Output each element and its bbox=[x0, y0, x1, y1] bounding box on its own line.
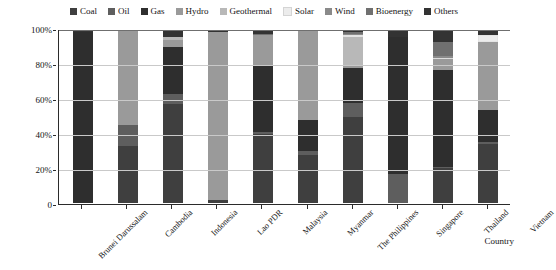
bar-segment-hydro bbox=[208, 32, 228, 200]
y-tick-mark-60 bbox=[53, 100, 56, 101]
legend-item-others[interactable]: Others bbox=[424, 6, 458, 16]
bar-segment-gas bbox=[388, 37, 408, 174]
legend-label: Geothermal bbox=[230, 6, 272, 16]
bar-segment-gas bbox=[343, 68, 363, 103]
bar-segment-oil bbox=[388, 174, 408, 203]
bar-segment-gas bbox=[433, 70, 453, 167]
bar-segment-hydro bbox=[253, 35, 273, 66]
bar-segment-hydro bbox=[163, 40, 183, 47]
stacked-bar[interactable] bbox=[433, 30, 453, 203]
y-tick-label-40: 40% bbox=[6, 131, 52, 140]
bar-segment-others bbox=[163, 30, 183, 37]
legend-label: Others bbox=[434, 6, 458, 16]
bar-segment-coal bbox=[343, 117, 363, 204]
bar-segment-coal bbox=[298, 155, 318, 203]
legend-item-gas[interactable]: Gas bbox=[141, 6, 165, 16]
gridline-20 bbox=[59, 170, 510, 171]
y-tick-mark-0 bbox=[53, 205, 56, 206]
y-axis-tick-labels: 020%40%60%80%100% bbox=[0, 30, 56, 205]
y-tick-mark-20 bbox=[53, 170, 56, 171]
bar-column[interactable] bbox=[61, 30, 104, 203]
legend-item-oil[interactable]: Oil bbox=[108, 6, 130, 16]
legend-swatch-icon bbox=[176, 8, 183, 15]
bar-segment-coal bbox=[163, 104, 183, 203]
stacked-bar[interactable] bbox=[298, 30, 318, 203]
stacked-bar[interactable] bbox=[478, 30, 498, 203]
plot-wrapper bbox=[58, 30, 510, 205]
legend-item-bioenergy[interactable]: Bioenergy bbox=[366, 6, 413, 16]
stacked-bar[interactable] bbox=[253, 30, 273, 203]
bar-segment-coal bbox=[253, 134, 273, 203]
bar-column[interactable] bbox=[196, 30, 239, 203]
bar-column[interactable] bbox=[466, 30, 509, 203]
legend-item-geothermal[interactable]: Geothermal bbox=[220, 6, 272, 16]
y-tick-label-60: 60% bbox=[6, 96, 52, 105]
legend-item-coal[interactable]: Coal bbox=[70, 6, 97, 16]
legend-item-hydro[interactable]: Hydro bbox=[176, 6, 209, 16]
stacked-bar[interactable] bbox=[208, 30, 228, 203]
legend-swatch-icon bbox=[424, 8, 431, 15]
bar-segment-others bbox=[388, 30, 408, 37]
stacked-bar[interactable] bbox=[343, 30, 363, 203]
bar-segment-oil bbox=[343, 103, 363, 117]
plot-area bbox=[58, 30, 510, 205]
stacked-bar[interactable] bbox=[73, 30, 93, 203]
bar-column[interactable] bbox=[331, 30, 374, 203]
stacked-bar[interactable] bbox=[388, 30, 408, 203]
y-tick-label-100: 100% bbox=[6, 26, 52, 35]
x-axis-category-labels: Brunei DarussalamCambodiaIndonesiaLao PD… bbox=[58, 208, 510, 264]
y-tick-label-80: 80% bbox=[6, 61, 52, 70]
gridline-80 bbox=[59, 65, 510, 66]
bar-segment-coal bbox=[118, 146, 138, 203]
bar-segment-bioenergy bbox=[433, 42, 453, 56]
bar-column[interactable] bbox=[151, 30, 194, 203]
gridline-40 bbox=[59, 135, 510, 136]
chart-legend: CoalOilGasHydroGeothermalSolarWindBioene… bbox=[0, 6, 528, 16]
legend-swatch-icon bbox=[220, 8, 227, 15]
bar-column[interactable] bbox=[241, 30, 284, 203]
bar-segment-solar bbox=[478, 35, 498, 42]
legend-swatch-icon bbox=[325, 8, 332, 15]
legend-swatch-icon bbox=[141, 8, 148, 15]
legend-item-wind[interactable]: Wind bbox=[325, 6, 355, 16]
stacked-bar[interactable] bbox=[163, 30, 183, 203]
legend-swatch-icon bbox=[70, 8, 77, 15]
y-tick-mark-80 bbox=[53, 65, 56, 66]
bar-segment-gas bbox=[163, 47, 183, 94]
bar-segment-coal bbox=[208, 200, 228, 203]
stacked-bar[interactable] bbox=[118, 30, 138, 203]
bar-segment-gas bbox=[73, 32, 93, 203]
legend-label: Gas bbox=[151, 6, 165, 16]
bar-segment-others bbox=[433, 30, 453, 42]
bar-segment-hydro bbox=[298, 30, 318, 120]
gridline-60 bbox=[59, 100, 510, 101]
legend-swatch-icon bbox=[108, 8, 115, 15]
gridline-100 bbox=[59, 30, 510, 31]
bar-segment-geothermal bbox=[343, 37, 363, 66]
bar-segment-coal bbox=[478, 144, 498, 203]
legend-label: Hydro bbox=[186, 6, 209, 16]
bar-column[interactable] bbox=[106, 30, 149, 203]
bar-segment-coal bbox=[433, 168, 453, 203]
y-tick-mark-100 bbox=[53, 30, 56, 31]
bar-column[interactable] bbox=[286, 30, 329, 203]
legend-label: Bioenergy bbox=[376, 6, 413, 16]
bar-column[interactable] bbox=[421, 30, 464, 203]
bars-container bbox=[60, 30, 510, 203]
bar-segment-hydro bbox=[118, 30, 138, 125]
y-tick-label-20: 20% bbox=[6, 166, 52, 175]
legend-label: Coal bbox=[80, 6, 97, 16]
y-tick-mark-40 bbox=[53, 135, 56, 136]
bar-segment-gas bbox=[478, 110, 498, 143]
legend-swatch-icon bbox=[366, 8, 373, 15]
legend-label: Oil bbox=[118, 6, 130, 16]
legend-swatch-icon bbox=[283, 7, 292, 16]
legend-item-solar[interactable]: Solar bbox=[283, 6, 314, 16]
legend-label: Wind bbox=[335, 6, 355, 16]
y-tick-label-0: 0 bbox=[6, 201, 52, 210]
legend-label: Solar bbox=[295, 6, 314, 16]
x-axis-title: Country bbox=[484, 236, 514, 246]
bar-column[interactable] bbox=[376, 30, 419, 203]
